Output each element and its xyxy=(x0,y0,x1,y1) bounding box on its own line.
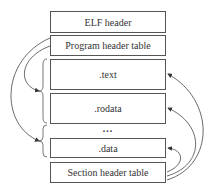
text-section-box: .text xyxy=(50,59,166,90)
section-header-table-box: Section header table xyxy=(50,162,166,183)
arrow-shdr-to-data xyxy=(167,148,181,172)
segment-brace-1 xyxy=(39,59,47,123)
arrow-shdr-to-rodata xyxy=(167,108,196,176)
data-section-label: .data xyxy=(98,143,117,154)
program-header-table-box: Program header table xyxy=(50,35,166,56)
program-header-table-label: Program header table xyxy=(65,40,151,51)
rodata-section-label: .rodata xyxy=(94,103,122,114)
elf-header-label: ELF header xyxy=(85,17,132,28)
data-section-box: .data xyxy=(50,138,166,158)
section-header-table-label: Section header table xyxy=(67,167,148,178)
arrow-shdr-to-text xyxy=(167,74,203,180)
rodata-section-box: .rodata xyxy=(50,93,166,124)
ellipsis: ... xyxy=(50,123,166,134)
text-section-label: .text xyxy=(99,69,117,80)
elf-header-box: ELF header xyxy=(50,11,166,33)
segment-brace-2 xyxy=(39,125,47,157)
